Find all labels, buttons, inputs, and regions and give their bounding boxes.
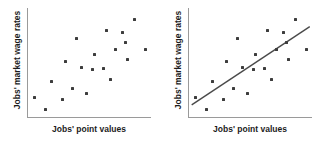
data-point [126, 58, 129, 61]
data-point [33, 96, 36, 99]
data-point [61, 98, 64, 101]
data-point [282, 31, 285, 34]
data-point [205, 108, 208, 111]
data-point [222, 98, 225, 101]
data-point [246, 92, 249, 95]
y-axis-label: Jobs' market wage rates [173, 5, 183, 115]
scatterplot-figure: Jobs' market wage rates Jobs' point valu… [0, 0, 322, 150]
plot-area-right [188, 8, 311, 118]
data-point [93, 53, 96, 56]
trendline [188, 8, 311, 118]
data-point [75, 37, 78, 40]
chart-panel-right: Jobs' market wage rates Jobs' point valu… [161, 0, 322, 150]
data-point [121, 31, 124, 34]
data-point [225, 60, 228, 63]
data-point [133, 18, 136, 21]
data-point [44, 108, 47, 111]
data-point [91, 68, 94, 71]
x-axis-label: Jobs' point values [27, 124, 151, 134]
data-point [114, 48, 117, 51]
data-point [236, 37, 239, 40]
data-point [144, 48, 147, 51]
data-point [85, 92, 88, 95]
data-point [64, 60, 67, 63]
data-point [109, 78, 112, 81]
data-point [305, 48, 308, 51]
data-point [254, 53, 257, 56]
data-point [211, 80, 214, 83]
data-point [105, 29, 108, 32]
data-point [287, 58, 290, 61]
data-point [194, 96, 197, 99]
y-axis-label: Jobs' market wage rates [12, 5, 22, 115]
data-point [266, 29, 269, 32]
chart-panel-left: Jobs' market wage rates Jobs' point valu… [0, 0, 161, 150]
data-point [241, 66, 244, 69]
data-point [285, 41, 288, 44]
data-point [294, 18, 297, 21]
data-point [80, 66, 83, 69]
data-point [275, 48, 278, 51]
x-axis-label: Jobs' point values [188, 124, 312, 134]
data-point [50, 80, 53, 83]
data-point [252, 68, 255, 71]
data-point [124, 41, 127, 44]
data-point [102, 67, 105, 70]
data-point [270, 78, 273, 81]
data-point [263, 67, 266, 70]
data-point [71, 87, 74, 90]
data-point [232, 87, 235, 90]
plot-area-left [27, 8, 150, 118]
